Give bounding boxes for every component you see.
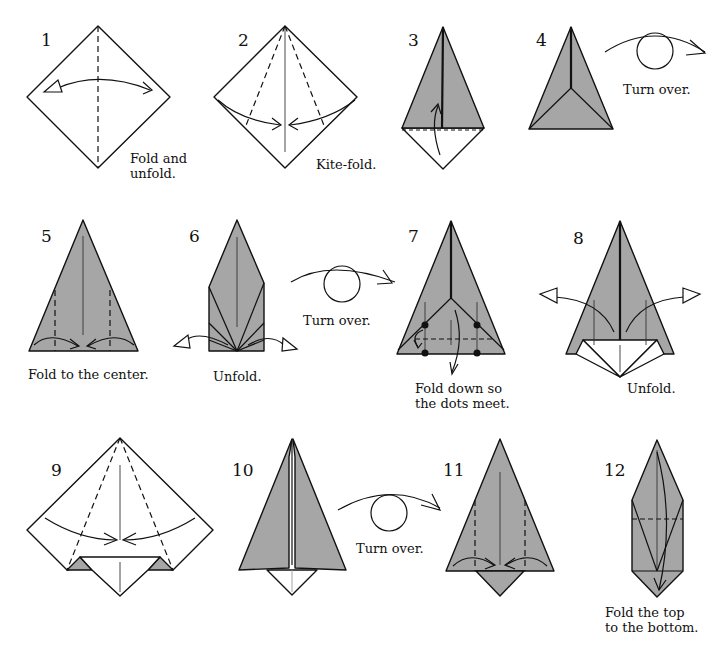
step-2-caption: Kite-fold.	[316, 157, 376, 172]
step-number-5: 5	[41, 226, 52, 246]
arrow-head-icon	[683, 288, 700, 303]
turn-over-symbol-1	[605, 33, 705, 69]
step-number-1: 1	[41, 30, 52, 50]
turn-over-label-2: Turn over.	[303, 313, 371, 328]
step-12-caption-line-1: Fold the top	[605, 605, 685, 620]
step-number-10: 10	[232, 460, 254, 480]
step-8-caption: Unfold.	[627, 381, 676, 396]
step-number-11: 11	[443, 460, 465, 480]
origami-diagram	[0, 0, 726, 658]
turn-over-label-3: Turn over.	[356, 541, 424, 556]
step-number-6: 6	[189, 226, 200, 246]
step-number-12: 12	[604, 460, 626, 480]
step-7-caption-line-1: Fold down so	[415, 381, 502, 396]
arrow-head-icon	[282, 338, 297, 351]
step-6-caption: Unfold.	[213, 369, 262, 384]
arrow-head-icon	[174, 335, 190, 348]
step-5-caption: Fold to the center.	[28, 367, 149, 382]
step-10-diagram	[239, 439, 346, 595]
step-number-9: 9	[51, 460, 62, 480]
step-number-3: 3	[408, 30, 419, 50]
step-1-caption-line-1: Fold and	[130, 151, 187, 166]
turn-over-symbol-3	[338, 494, 440, 531]
step-12-diagram	[632, 440, 683, 597]
step-8-diagram	[540, 221, 700, 377]
step-7-caption-line-2: the dots meet.	[415, 396, 510, 411]
turn-over-label-1: Turn over.	[623, 82, 691, 97]
step-12-caption-line-2: to the bottom.	[605, 620, 699, 635]
step-2-diagram	[214, 26, 357, 168]
step-number-7: 7	[408, 226, 419, 246]
step-number-2: 2	[238, 30, 249, 50]
step-number-8: 8	[573, 228, 584, 248]
step-1-caption-line-2: unfold.	[130, 166, 176, 181]
arrow-head-icon	[540, 288, 557, 303]
step-number-4: 4	[536, 30, 547, 50]
turn-over-symbol-2	[291, 266, 395, 302]
